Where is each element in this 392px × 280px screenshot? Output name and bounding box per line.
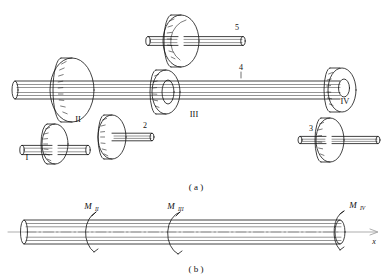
label-moment-IV: M IV — [348, 200, 366, 211]
moment-III-subscript: III — [177, 206, 185, 212]
moment-II-subscript: II — [94, 206, 100, 212]
gear-station-II — [50, 58, 94, 122]
gear-station-III — [150, 70, 180, 114]
moment-III-symbol: M — [166, 201, 175, 211]
label-gear-2: 2 — [143, 121, 147, 130]
gear-station-I — [20, 124, 90, 164]
torque-arc-III — [168, 212, 182, 254]
label-station-II: II — [75, 114, 81, 124]
label-axis-x: x — [371, 237, 376, 246]
label-station-IV: IV — [341, 96, 351, 106]
label-gear-5: 5 — [235, 23, 239, 32]
panel-b — [8, 211, 378, 254]
label-station-III: III — [190, 109, 199, 119]
caption-panel-b: ( b ) — [189, 264, 204, 274]
gear-5-disc — [146, 15, 245, 67]
moment-IV-symbol: M — [348, 200, 357, 210]
label-shaft-4: 4 — [239, 63, 243, 72]
label-gear-3: 3 — [309, 124, 313, 133]
label-station-I: I — [26, 152, 29, 162]
mechanics-figure: I II III IV 2 3 4 5 ( a ) M II M III M I… — [0, 0, 392, 280]
label-moment-II: M II — [83, 201, 100, 212]
label-moment-III: M III — [166, 201, 184, 212]
moment-II-symbol: M — [83, 201, 92, 211]
panel-a — [12, 15, 380, 164]
moment-IV-subscript: IV — [359, 205, 366, 211]
caption-panel-a: ( a ) — [189, 182, 204, 192]
main-shaft — [12, 81, 340, 99]
